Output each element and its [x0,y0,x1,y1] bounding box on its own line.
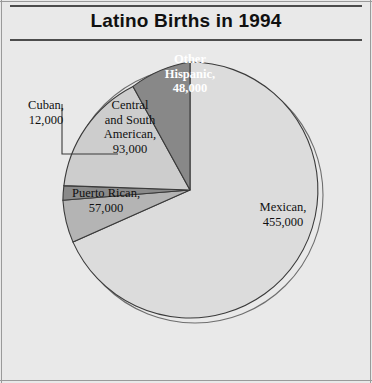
figure-border-top [0,1,372,2]
page-title: Latino Births in 1994 [10,10,362,32]
chart-title-band: Latino Births in 1994 [10,5,362,41]
chart-figure: Latino Births in 1994 Other Hispanic, 48… [0,0,372,383]
title-rule-top [10,5,362,7]
pie-chart-canvas [0,41,372,381]
